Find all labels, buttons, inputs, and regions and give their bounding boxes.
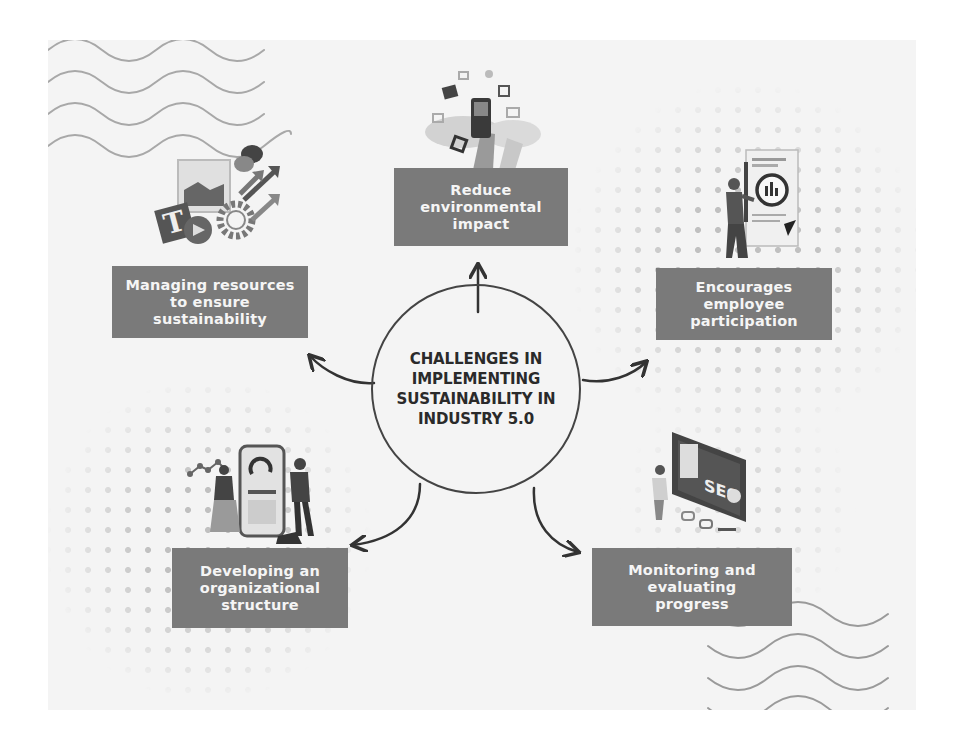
center-topic-circle: CHALLENGES IN IMPLEMENTING SUSTAINABILIT… (371, 284, 581, 494)
person-holding-phone-with-floating-media-icon (403, 52, 553, 170)
node-developing-organizational-structure: Developing an organizational structure (172, 548, 348, 628)
center-title-line: CHALLENGES IN (376, 349, 576, 369)
node-label-line: structure (200, 597, 321, 614)
node-reduce-environmental-impact: Reduce environmental impact (394, 168, 568, 246)
node-label-line: Monitoring and (628, 562, 756, 579)
node-label-line: Managing resources (125, 277, 294, 294)
team-around-smartphone-dashboard-icon (178, 440, 348, 550)
node-label-line: to ensure (125, 294, 294, 311)
node-label-line: Developing an (200, 563, 321, 580)
infographic-canvas: CHALLENGES IN IMPLEMENTING SUSTAINABILIT… (48, 40, 916, 710)
center-title-line: INDUSTRY 5.0 (376, 409, 576, 429)
arrow-to-right (583, 362, 646, 381)
node-label-line: employee (690, 296, 798, 313)
person-presenting-bar-chart-document-icon (698, 140, 808, 270)
content-tools-gear-arrows-icon: T (148, 120, 308, 250)
node-label-line: progress (628, 596, 756, 613)
center-topic-title: CHALLENGES IN IMPLEMENTING SUSTAINABILIT… (376, 349, 576, 429)
person-with-seo-monitor-icon: SEO (638, 424, 758, 540)
node-label-line: Reduce (420, 182, 542, 199)
node-monitoring-evaluating-progress: Monitoring and evaluating progress (592, 548, 792, 626)
arrow-to-bottom-right (534, 488, 578, 552)
center-title-line: IMPLEMENTING (376, 369, 576, 389)
node-label-line: sustainability (125, 311, 294, 328)
arrow-to-left (310, 356, 374, 383)
node-label-line: organizational (200, 580, 321, 597)
node-managing-resources-sustainability: Managing resources to ensure sustainabil… (112, 266, 308, 338)
node-label-line: participation (690, 313, 798, 330)
node-label-line: Encourages (690, 279, 798, 296)
node-label-line: environmental (420, 199, 542, 216)
node-encourages-employee-participation: Encourages employee participation (656, 268, 832, 340)
center-title-line: SUSTAINABILITY IN (376, 389, 576, 409)
node-label-line: evaluating (628, 579, 756, 596)
arrow-to-bottom-left (353, 484, 420, 545)
node-label-line: impact (420, 216, 542, 233)
